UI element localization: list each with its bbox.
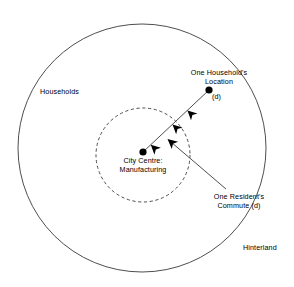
- household-location-label-line1: One Household's: [172, 68, 266, 77]
- commute-label-line1: One Resident's: [192, 192, 286, 201]
- city-centre-label-line2: Manufacturing: [96, 165, 190, 174]
- household-distance-label: (d): [212, 92, 221, 101]
- monocentric-city-diagram: Households Hinterland One Household's Lo…: [0, 0, 294, 287]
- commute-arrowhead-3: [148, 141, 161, 154]
- city-centre-marker: [139, 148, 146, 155]
- hinterland-label: Hinterland: [243, 243, 277, 252]
- commute-arrowhead-2: [169, 121, 182, 134]
- commute-arrowheads: [148, 107, 198, 155]
- hinterland-boundary-circle: [18, 24, 266, 272]
- commute-label-line2: Commute (d): [192, 201, 286, 210]
- leader-arrowhead: [164, 135, 178, 149]
- households-label: Households: [40, 87, 79, 96]
- city-centre-label-line1: City Centre:: [96, 156, 190, 165]
- household-location-label-line2: Location: [172, 77, 266, 86]
- commute-line: [143, 90, 209, 152]
- commute-arrowhead-1: [184, 107, 197, 120]
